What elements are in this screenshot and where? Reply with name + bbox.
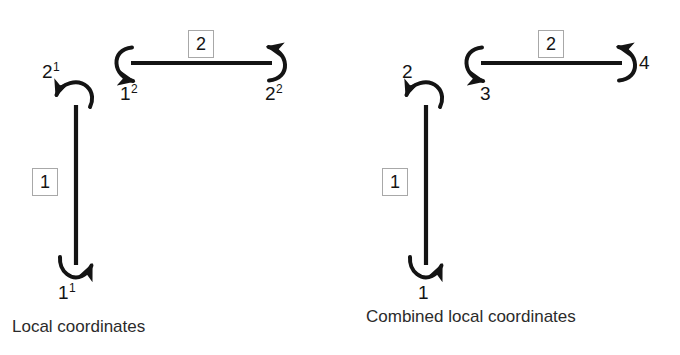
panel-local-coordinates: 1 2 21 11 12 22 Local coordinates (0, 0, 340, 355)
node-label-top: 2 (402, 62, 413, 81)
node-label-left: 3 (480, 84, 491, 103)
rotation-arrow-node-top-left (57, 82, 93, 107)
panel-caption-local-coordinates: Local coordinates (12, 318, 145, 335)
node-label-right: 4 (639, 53, 650, 72)
node-label-right-base: 2 (265, 83, 276, 104)
node-label-top: 21 (42, 62, 60, 81)
node-label-bottom: 1 (418, 283, 429, 302)
node-label-bottom-base: 1 (418, 282, 429, 303)
panel-combined-local-coordinates: 1 2 2 1 3 4 Combined local coordinates (340, 0, 680, 355)
node-label-bottom-superscript: 1 (69, 281, 76, 295)
node-label-right: 22 (265, 84, 283, 103)
node-label-bottom-base: 1 (58, 282, 69, 303)
node-label-top-base: 2 (42, 61, 53, 82)
node-label-left: 12 (120, 84, 138, 103)
node-label-left-base: 1 (120, 83, 131, 104)
element-tag-1: 1 (382, 168, 408, 196)
node-label-right-base: 4 (639, 52, 650, 73)
node-label-left-base: 3 (480, 83, 491, 104)
element-tag-1: 1 (32, 168, 58, 196)
element-tag-2: 2 (538, 30, 564, 58)
node-label-top-base: 2 (402, 61, 413, 82)
node-label-right-superscript: 2 (276, 82, 283, 96)
node-label-top-superscript: 1 (53, 60, 60, 74)
rotation-arrow-node-top-left (407, 82, 443, 107)
figure-canvas: 1 2 21 11 12 22 Local coordinates (0, 0, 680, 355)
element-tag-2: 2 (188, 30, 214, 58)
rotation-arrow-node-left-top (466, 48, 483, 82)
rotation-arrow-node-left-top (116, 48, 133, 82)
node-label-left-superscript: 2 (131, 82, 138, 96)
panel-caption-combined-local-coordinates: Combined local coordinates (366, 308, 576, 325)
node-label-bottom: 11 (58, 283, 76, 302)
